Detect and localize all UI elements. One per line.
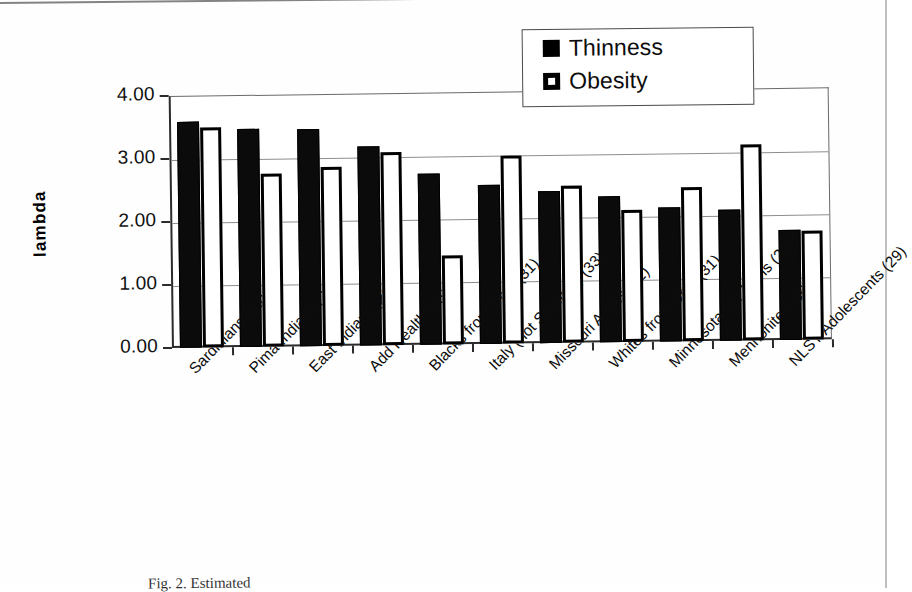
bar-obesity bbox=[801, 230, 823, 339]
y-axis-tick-label: 1.00 bbox=[97, 272, 157, 295]
bar-obesity bbox=[261, 173, 284, 347]
figure-caption: Fig. 2. Estimated bbox=[148, 575, 251, 592]
x-axis-tick bbox=[652, 342, 654, 350]
bar-obesity bbox=[200, 127, 224, 348]
y-axis-ticks bbox=[0, 0, 882, 2]
y-axis-tick bbox=[160, 95, 169, 97]
bar-obesity bbox=[442, 255, 464, 345]
y-axis-tick-label: 3.00 bbox=[95, 146, 155, 169]
legend-item-thinness: Thinness bbox=[543, 36, 663, 60]
y-axis-tick bbox=[161, 221, 170, 223]
y-axis-title: lambda bbox=[30, 164, 52, 284]
bar-obesity bbox=[681, 187, 704, 342]
x-axis-tick bbox=[352, 346, 354, 354]
hollow-square-icon bbox=[543, 73, 560, 90]
y-axis-tick-label: 2.00 bbox=[96, 209, 156, 232]
x-axis-tick bbox=[412, 345, 414, 353]
x-axis-tick bbox=[532, 343, 534, 351]
y-axis-tick bbox=[162, 284, 171, 286]
bar-obesity bbox=[740, 144, 764, 340]
x-axis-tick bbox=[772, 340, 774, 348]
bar-group bbox=[177, 95, 224, 348]
bar-obesity bbox=[500, 156, 523, 344]
y-axis-tick-label: 0.00 bbox=[98, 335, 158, 358]
x-axis-tick bbox=[592, 342, 594, 350]
bar-obesity bbox=[621, 210, 644, 343]
legend-item-obesity: Obesity bbox=[543, 69, 648, 93]
bar-obesity bbox=[380, 152, 404, 346]
filled-square-icon bbox=[543, 40, 560, 57]
bar-obesity bbox=[321, 167, 344, 346]
x-axis-tick bbox=[832, 339, 834, 347]
y-axis-tick bbox=[160, 158, 169, 160]
y-axis-tick bbox=[163, 347, 172, 349]
bar-obesity bbox=[561, 185, 584, 343]
bar-thinness bbox=[177, 122, 202, 348]
x-axis-tick bbox=[712, 341, 714, 349]
legend-label-obesity: Obesity bbox=[569, 69, 648, 93]
x-axis-tick bbox=[292, 346, 294, 354]
y-axis-tick-label: 4.00 bbox=[95, 83, 155, 106]
y-axis-labels: 0.001.002.003.004.00 bbox=[83, 0, 153, 1]
legend-label-thinness: Thinness bbox=[569, 36, 663, 60]
x-axis-tick bbox=[472, 344, 474, 352]
chart-legend: Thinness Obesity bbox=[522, 27, 755, 107]
x-axis-tick bbox=[232, 347, 234, 355]
